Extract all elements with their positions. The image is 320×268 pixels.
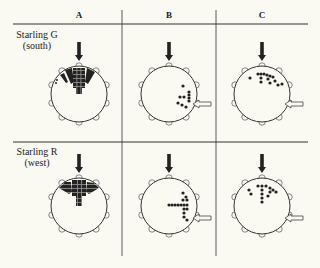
row-label-name: Starling G [9, 29, 65, 40]
cage-starling-r-b [139, 154, 199, 237]
cage-starling-g-a [49, 42, 109, 125]
row-label-direction: (west) [9, 157, 65, 168]
cage-starling-r-c [232, 154, 292, 237]
cage-starling-g-c [232, 42, 292, 125]
row-label-name: Starling R [9, 146, 65, 157]
column-label-c: C [252, 10, 272, 20]
row-label-starling-r: Starling R (west) [9, 146, 65, 168]
column-label-a: A [69, 10, 89, 20]
row-label-direction: (south) [9, 40, 65, 51]
cage-starling-g-b [139, 42, 199, 125]
row-label-starling-g: Starling G (south) [9, 29, 65, 51]
column-label-b: B [159, 10, 179, 20]
